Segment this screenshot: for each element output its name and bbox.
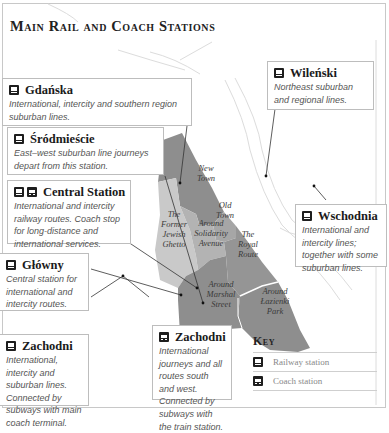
district-label-marshal-street: Around Marshal Street — [204, 279, 238, 309]
station-name: Śródmieście — [30, 132, 95, 147]
station-name: Zachodni — [175, 330, 226, 345]
station-description: International journeys and all routes so… — [159, 345, 226, 433]
station-description: International and intercity lines; toget… — [302, 224, 381, 274]
station-description: Central station for international and in… — [6, 273, 83, 311]
station-card-wilenski[interactable]: Wileński Northeast suburban and regional… — [267, 61, 374, 110]
district-label-lazienki-park: Around Łazienki Park — [253, 286, 297, 316]
railway-station-icon — [253, 357, 263, 367]
station-card-gdanska[interactable]: Gdańska International, intercity and sou… — [2, 78, 192, 126]
railway-station-icon — [14, 134, 24, 144]
railway-station-icon — [302, 211, 312, 221]
key-item-railway: Railway station — [253, 352, 377, 371]
station-description: International, intercity and southern re… — [9, 98, 186, 123]
railway-station-icon — [274, 68, 284, 78]
railway-station-icon — [14, 187, 24, 197]
coach-station-icon — [253, 376, 263, 386]
station-card-central[interactable]: Central Station International and interc… — [7, 180, 131, 244]
key-label: Coach station — [273, 376, 322, 386]
station-card-glowny[interactable]: Główny Central station for international… — [0, 253, 89, 311]
station-description: International, intercity and suburban li… — [6, 354, 83, 430]
station-name: Central Station — [43, 185, 125, 200]
station-description: Northeast suburban and regional lines. — [274, 81, 368, 106]
district-label-former-jewish-ghetto: The Former Jewish Ghetto — [159, 209, 189, 249]
railway-station-icon — [9, 85, 19, 95]
station-description: East–west suburban line journeys depart … — [14, 147, 158, 172]
district-label-solidarity-avenue: Around Solidarity Avenue — [193, 218, 229, 248]
district-label-royal-route: The Royal Route — [233, 229, 263, 259]
station-card-wschodnia[interactable]: Wschodnia International and intercity li… — [295, 204, 387, 267]
station-card-srodmiescie[interactable]: Śródmieście East–west suburban line jour… — [7, 127, 164, 175]
station-name: Główny — [22, 258, 64, 273]
key-item-coach: Coach station — [253, 371, 377, 391]
railway-station-icon — [6, 260, 16, 270]
railway-station-icon — [6, 341, 16, 351]
district-label-old-town: Old Town — [214, 200, 236, 220]
page-title: Main Rail and Coach Stations — [10, 18, 215, 35]
station-name: Wileński — [290, 66, 337, 81]
coach-station-icon — [159, 332, 169, 342]
station-name: Zachodni — [22, 339, 73, 354]
coach-station-icon — [27, 187, 37, 197]
key-title: Key — [253, 334, 377, 349]
station-name: Gdańska — [25, 83, 73, 98]
station-description: International and intercity railway rout… — [14, 200, 125, 250]
station-name: Wschodnia — [318, 209, 378, 224]
key-label: Railway station — [273, 357, 329, 367]
station-card-zachodni-coach[interactable]: Zachodni International journeys and all … — [152, 325, 232, 400]
district-label-new-town: New Town — [190, 163, 222, 183]
station-card-zachodni-rail[interactable]: Zachodni International, intercity and su… — [0, 334, 89, 406]
map-key: Key Railway station Coach station — [253, 334, 377, 391]
